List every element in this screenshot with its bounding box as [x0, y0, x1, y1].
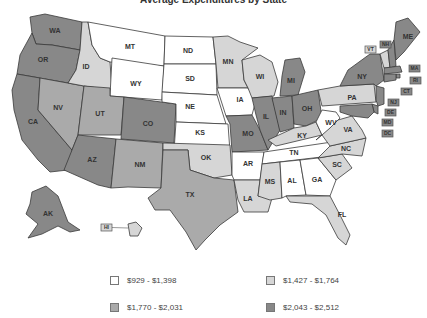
svg-text:RI: RI	[413, 77, 419, 83]
svg-text:NY: NY	[357, 73, 367, 80]
svg-text:IL: IL	[263, 113, 270, 120]
legend-swatch	[110, 303, 119, 312]
legend-label: $929 - $1,398	[127, 276, 176, 285]
state-ny[interactable]	[340, 54, 384, 86]
svg-text:MS: MS	[265, 178, 276, 185]
state-ri[interactable]	[396, 74, 400, 78]
svg-text:CO: CO	[143, 120, 154, 127]
svg-text:KY: KY	[297, 132, 307, 139]
svg-text:DE: DE	[387, 109, 395, 115]
svg-text:NM: NM	[135, 161, 146, 168]
legend-item-1: $929 - $1,398	[110, 276, 176, 285]
svg-text:NJ: NJ	[390, 99, 397, 105]
svg-text:NE: NE	[185, 103, 195, 110]
svg-text:LA: LA	[243, 195, 252, 202]
svg-text:OH: OH	[302, 105, 313, 112]
state-hi[interactable]	[128, 222, 142, 236]
svg-text:WY: WY	[130, 80, 142, 87]
svg-text:TN: TN	[289, 149, 298, 156]
svg-text:MN: MN	[223, 58, 234, 65]
legend-label: $2,043 - $2,512	[283, 303, 339, 312]
svg-text:TX: TX	[186, 191, 195, 198]
svg-text:UT: UT	[95, 110, 105, 117]
svg-text:PA: PA	[347, 94, 356, 101]
legend: $929 - $1,398 $1,427 - $1,764 $1,770 - $…	[0, 268, 427, 318]
us-map: WA OR CA NV ID MT WY UT CO AZ NM ND SD N…	[0, 0, 427, 262]
legend-label: $1,770 - $2,031	[127, 303, 183, 312]
svg-text:CT: CT	[403, 88, 410, 94]
svg-text:FL: FL	[338, 211, 347, 218]
svg-text:GA: GA	[312, 176, 323, 183]
legend-item-4: $2,043 - $2,512	[266, 303, 339, 312]
svg-text:IN: IN	[280, 109, 287, 116]
legend-item-3: $1,770 - $2,031	[110, 303, 183, 312]
svg-text:VT: VT	[367, 46, 373, 52]
legend-swatch	[110, 276, 119, 285]
legend-item-2: $1,427 - $1,764	[266, 276, 339, 285]
svg-text:IA: IA	[237, 96, 244, 103]
svg-text:AR: AR	[243, 160, 253, 167]
svg-text:WI: WI	[256, 73, 265, 80]
svg-text:ME: ME	[403, 33, 414, 40]
svg-text:VA: VA	[343, 126, 352, 133]
svg-text:MT: MT	[125, 43, 136, 50]
state-fl[interactable]	[286, 196, 350, 245]
svg-text:OR: OR	[38, 56, 49, 63]
legend-label: $1,427 - $1,764	[283, 276, 339, 285]
state-ct[interactable]	[384, 74, 396, 82]
svg-text:WA: WA	[49, 27, 60, 34]
svg-text:SD: SD	[185, 75, 195, 82]
state-md[interactable]	[340, 104, 374, 118]
svg-text:CA: CA	[28, 118, 38, 125]
legend-swatch	[266, 276, 275, 285]
svg-text:MO: MO	[242, 130, 254, 137]
svg-text:NC: NC	[341, 145, 351, 152]
svg-text:MI: MI	[287, 77, 295, 84]
svg-text:AL: AL	[287, 177, 297, 184]
svg-text:NV: NV	[53, 104, 63, 111]
svg-text:HI: HI	[104, 224, 110, 230]
svg-text:MA: MA	[411, 65, 419, 71]
svg-text:SC: SC	[332, 161, 342, 168]
svg-text:ID: ID	[83, 63, 90, 70]
svg-text:AZ: AZ	[87, 156, 97, 163]
svg-text:NH: NH	[382, 41, 390, 47]
svg-text:DC: DC	[384, 130, 392, 136]
state-nj[interactable]	[376, 86, 384, 106]
svg-text:AK: AK	[43, 210, 53, 217]
legend-swatch	[266, 303, 275, 312]
svg-text:MD: MD	[384, 119, 392, 125]
svg-text:KS: KS	[195, 129, 205, 136]
svg-text:OK: OK	[201, 154, 212, 161]
svg-text:WV: WV	[325, 119, 337, 126]
svg-text:ND: ND	[183, 47, 193, 54]
